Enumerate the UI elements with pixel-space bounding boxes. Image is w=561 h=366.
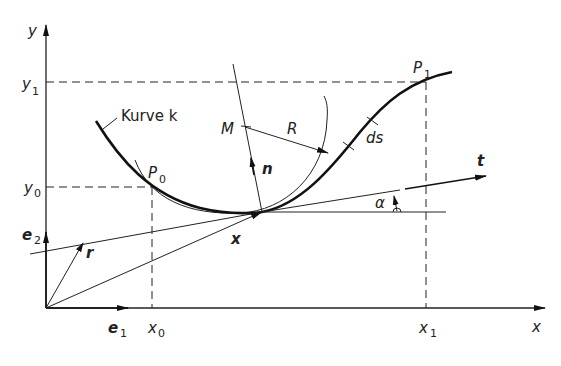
p0-label: P 0 [148,164,166,186]
x-axis-label: x [531,318,541,336]
y-axis-label: y [27,22,38,40]
normal-line [233,64,262,212]
normal-n-label: n [262,160,273,178]
svg-text:1: 1 [120,327,127,340]
center-m-label: M [221,120,234,138]
svg-text:e: e [108,319,118,337]
position-vector-x [46,212,262,308]
curve-label: Kurve k [121,107,178,125]
svg-text:x: x [418,319,428,337]
curve-k [96,72,452,213]
arc-element-ds-label: ds [366,129,384,147]
svg-text:1: 1 [424,68,431,81]
curve-geometry-diagram: y x y 1 y 0 x 0 x 1 e 1 e 2 Kurve k P 0 … [0,0,561,366]
svg-text:P: P [148,164,158,182]
svg-text:0: 0 [158,327,165,340]
tangent-line [30,212,262,254]
r-vector [46,243,83,308]
svg-text:2: 2 [34,234,41,247]
e1-label: e 1 [108,319,127,340]
svg-text:1: 1 [430,327,437,340]
svg-text:y: y [21,75,32,93]
angle-alpha-label: α [375,194,385,212]
curve-label-leader [103,118,117,129]
tangent-t-label: t [477,152,485,170]
r-vector-label: r [86,244,95,262]
svg-text:0: 0 [34,187,41,200]
svg-text:x: x [147,319,157,337]
radius-r-label: R [287,120,297,138]
svg-text:1: 1 [32,85,39,98]
e2-label: e 2 [22,226,41,247]
y1-tick-label: y 1 [21,75,39,98]
x0-tick-label: x 0 [147,319,165,340]
position-x-label: x [230,230,242,248]
y0-tick-label: y 0 [23,179,41,200]
svg-text:y: y [23,179,34,197]
tangent-vector-t [405,176,486,189]
svg-text:P: P [413,59,423,77]
svg-text:e: e [22,226,32,244]
x1-tick-label: x 1 [418,319,437,340]
svg-text:0: 0 [159,173,166,186]
p1-label: P 1 [413,59,431,81]
